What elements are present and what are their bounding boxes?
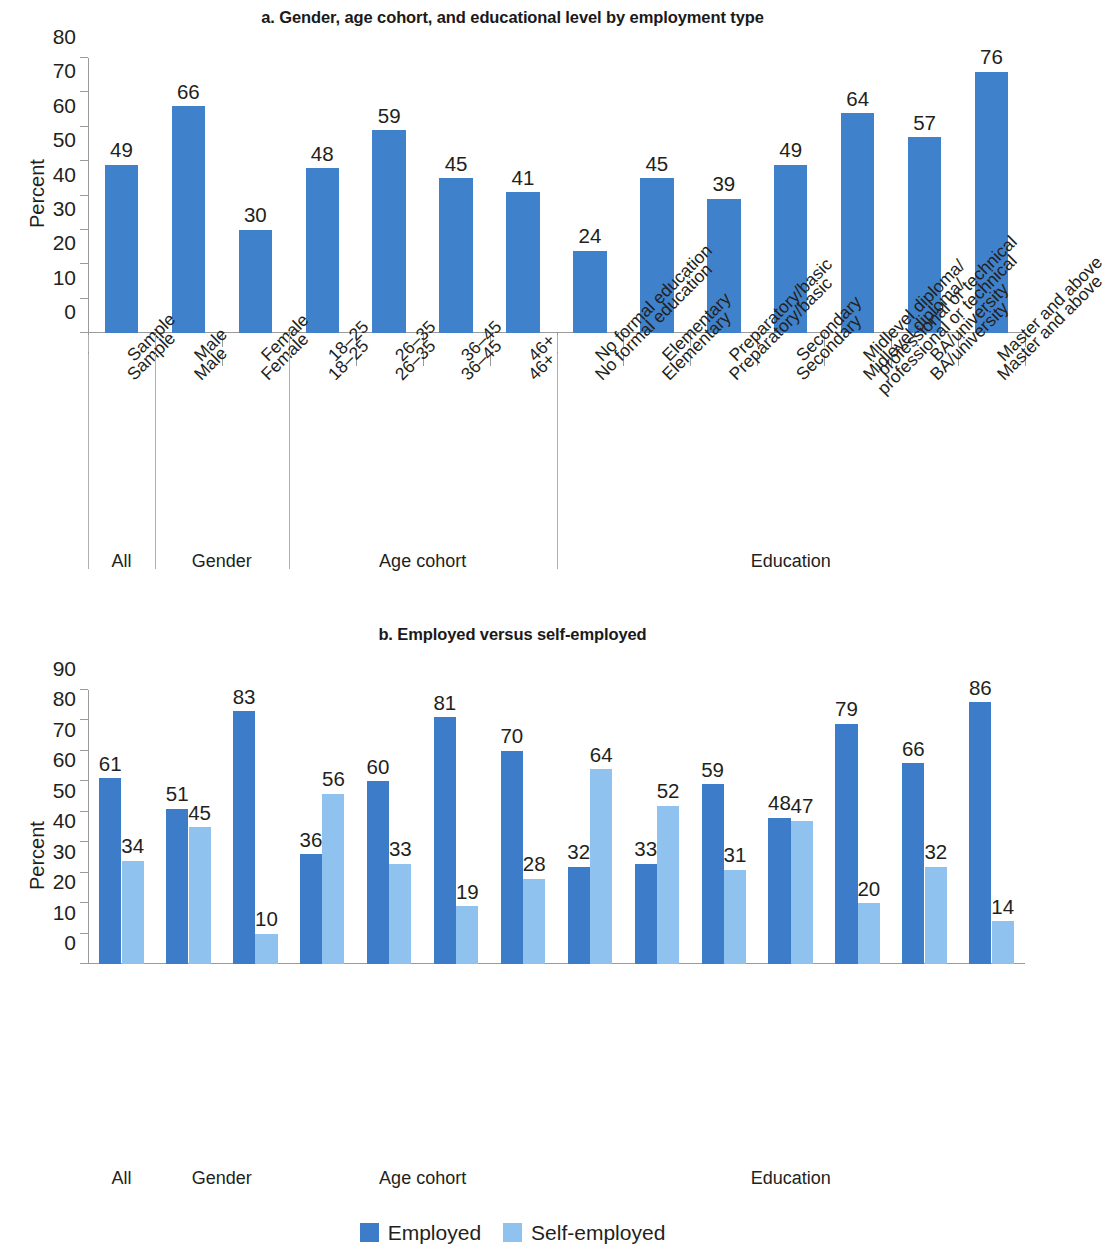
chart-a-title: a. Gender, age cohort, and educational l… <box>0 8 1025 27</box>
bar-value-label: 81 <box>433 693 456 714</box>
chart-b-title: b. Employed versus self-employed <box>0 625 1025 644</box>
bar-value-label: 64 <box>846 89 869 110</box>
bar-value-label: 10 <box>255 909 278 930</box>
bar-value-label: 56 <box>322 769 345 790</box>
bar-value-label: 64 <box>590 745 613 766</box>
y-axis-tick-label: 60 <box>53 749 76 770</box>
bar-employed: 32 <box>568 867 590 964</box>
y-axis-tick <box>80 963 88 964</box>
y-axis-tick <box>80 195 88 196</box>
bar-value-label: 86 <box>969 678 992 699</box>
legend: EmployedSelf-employed <box>0 1222 1025 1243</box>
y-axis-tick <box>80 841 88 842</box>
y-axis-tick <box>80 750 88 751</box>
bar-value-label: 31 <box>724 845 747 866</box>
bar-value-label: 20 <box>857 879 880 900</box>
group-label: All <box>111 551 131 572</box>
bar-value-label: 76 <box>980 47 1003 68</box>
group-label: Gender <box>192 551 252 572</box>
chart-b-x-axis-line <box>88 963 1025 964</box>
group-label: Age cohort <box>379 1168 466 1189</box>
legend-swatch-icon <box>360 1223 379 1242</box>
y-axis-tick-label: 60 <box>53 95 76 116</box>
bar-employed: 86 <box>969 702 991 964</box>
chart-b-y-axis-title: Percent <box>26 821 49 890</box>
legend-item: Employed <box>360 1222 481 1243</box>
chart-a-y-axis-line <box>88 58 89 333</box>
chart-b-y-axis-line <box>88 690 89 964</box>
y-axis-tick-label: 70 <box>53 719 76 740</box>
y-axis-tick-label: 40 <box>53 164 76 185</box>
y-axis-tick <box>80 57 88 58</box>
bar-self-employed: 47 <box>791 821 813 964</box>
bar-self-employed: 52 <box>657 806 679 964</box>
chart-b-plot-area: 0102030405060708090613451458310365660338… <box>88 690 1025 964</box>
bar-value-label: 14 <box>991 897 1014 918</box>
chart-a-y-axis-title: Percent <box>26 159 49 228</box>
bar-value-label: 52 <box>657 781 680 802</box>
y-axis-tick-label: 10 <box>53 902 76 923</box>
bar-value-label: 32 <box>924 842 947 863</box>
group-label: Education <box>751 551 831 572</box>
bar-employed: 48 <box>768 818 790 964</box>
bar-self-employed: 28 <box>523 879 545 964</box>
legend-label: Self-employed <box>531 1222 665 1243</box>
bar-self-employed: 56 <box>322 794 344 964</box>
bar: 45 <box>439 178 472 333</box>
bar-employed: 61 <box>99 778 121 964</box>
y-axis-tick-label: 30 <box>53 198 76 219</box>
bar-value-label: 48 <box>311 144 334 165</box>
bar-self-employed: 64 <box>590 769 612 964</box>
y-axis-tick <box>80 126 88 127</box>
bar-self-employed: 19 <box>456 906 478 964</box>
y-axis-tick <box>80 719 88 720</box>
bar-value-label: 19 <box>456 882 479 903</box>
group-label: Age cohort <box>379 551 466 572</box>
bar-value-label: 79 <box>835 699 858 720</box>
legend-item: Self-employed <box>503 1222 665 1243</box>
legend-label: Employed <box>388 1222 481 1243</box>
bar-value-label: 47 <box>791 796 814 817</box>
bar-self-employed: 34 <box>122 861 144 965</box>
bar-value-label: 59 <box>701 760 724 781</box>
bar: 41 <box>506 192 539 333</box>
bar-employed: 36 <box>300 854 322 964</box>
group-separator <box>88 354 89 569</box>
bar-employed: 60 <box>367 781 389 964</box>
bar-value-label: 59 <box>378 106 401 127</box>
y-axis-tick-label: 80 <box>53 26 76 47</box>
group-label: Gender <box>192 1168 252 1189</box>
bar: 59 <box>372 130 405 333</box>
legend-swatch-icon <box>503 1223 522 1242</box>
y-axis-tick <box>80 263 88 264</box>
bar-value-label: 83 <box>233 687 256 708</box>
y-axis-tick-label: 10 <box>53 267 76 288</box>
bar-value-label: 33 <box>634 839 657 860</box>
bar-employed: 79 <box>835 724 857 965</box>
y-axis-tick-label: 70 <box>53 60 76 81</box>
bar: 30 <box>239 230 272 333</box>
y-axis-tick <box>80 872 88 873</box>
bar-value-label: 66 <box>177 82 200 103</box>
y-axis-tick-label: 50 <box>53 129 76 150</box>
bar: 24 <box>573 251 606 334</box>
bar-value-label: 30 <box>244 205 267 226</box>
group-label: Education <box>751 1168 831 1189</box>
y-axis-tick <box>80 811 88 812</box>
bar-value-label: 45 <box>188 803 211 824</box>
bar-value-label: 32 <box>567 842 590 863</box>
group-separator <box>155 354 156 569</box>
bar-value-label: 41 <box>512 168 535 189</box>
y-axis-tick <box>80 933 88 934</box>
bar-value-label: 45 <box>445 154 468 175</box>
group-separator <box>557 354 558 569</box>
bar-value-label: 51 <box>166 784 189 805</box>
y-axis-tick <box>80 229 88 230</box>
y-axis-tick-label: 90 <box>53 658 76 679</box>
y-axis-tick-label: 50 <box>53 780 76 801</box>
y-axis-tick <box>80 298 88 299</box>
bar-self-employed: 31 <box>724 870 746 964</box>
bar-value-label: 49 <box>110 140 133 161</box>
bar-value-label: 24 <box>579 226 602 247</box>
y-axis-tick <box>80 902 88 903</box>
